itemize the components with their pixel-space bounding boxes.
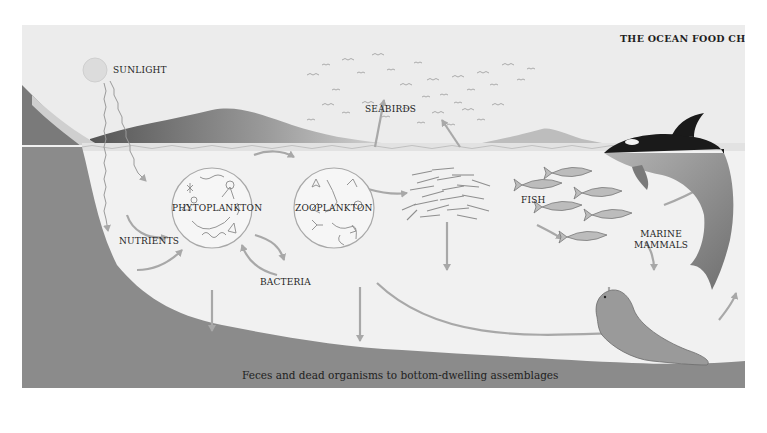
label-seabirds: SEABIRDS xyxy=(365,104,416,114)
diagram-title: THE OCEAN FOOD CHAIN xyxy=(620,33,745,44)
ocean-food-chain-diagram: THE OCEAN FOOD CHAIN SUNLIGHT SEABIRDS P… xyxy=(22,25,745,388)
label-marine-mammals: MARINE MAMMALS xyxy=(634,229,688,251)
label-zooplankton: ZOOPLANKTON xyxy=(295,203,373,213)
label-marine-mammals-line2: MAMMALS xyxy=(634,240,688,251)
label-nutrients: NUTRIENTS xyxy=(119,236,179,246)
label-marine-mammals-line1: MARINE xyxy=(634,229,688,240)
label-fish: FISH xyxy=(521,195,546,205)
label-phytoplankton: PHYTOPLANKTON xyxy=(172,203,262,213)
caption-bottom: Feces and dead organisms to bottom-dwell… xyxy=(242,369,558,381)
label-bacteria: BACTERIA xyxy=(260,277,311,287)
label-sunlight: SUNLIGHT xyxy=(113,65,167,75)
sun-icon xyxy=(83,58,107,82)
